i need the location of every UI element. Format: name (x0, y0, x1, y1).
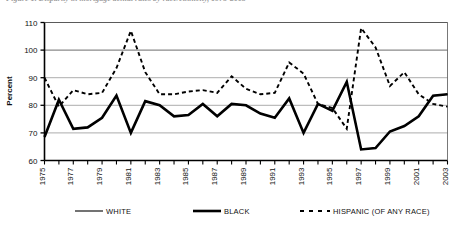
x-tick-label: 1977 (66, 167, 75, 185)
x-axis-tick-labels: 1975197719791981198319851987198919911993… (38, 167, 450, 185)
legend-item-hispanic-of-any-race: HISPANIC (OF ANY RACE) (300, 207, 430, 216)
x-tick-label: 2001 (412, 167, 421, 185)
legend-label: WHITE (106, 207, 131, 216)
x-tick-label: 1975 (38, 167, 47, 185)
x-tick-label: 2003 (441, 167, 450, 185)
x-tick-label: 1993 (297, 167, 306, 185)
legend-label: BLACK (224, 207, 250, 216)
y-tick-label: 60 (29, 157, 38, 166)
legend-item-white: WHITE (75, 207, 131, 216)
y-tick-label: 90 (29, 74, 38, 83)
y-tick-label: 70 (29, 129, 38, 138)
legend-item-black: BLACK (193, 207, 250, 216)
x-tick-label: 1981 (124, 167, 133, 185)
x-tick-label: 1991 (268, 167, 277, 185)
plot-frame (45, 23, 448, 161)
x-tick-label: 1987 (210, 167, 219, 185)
y-axis-title: Percent (5, 76, 14, 106)
series-line-black (45, 82, 448, 150)
y-tick-label: 100 (24, 46, 38, 55)
chart-container: 60708090100110 1975197719791981198319851… (0, 0, 469, 228)
x-tick-label: 1979 (95, 167, 104, 185)
y-tick-label: 110 (25, 19, 38, 28)
chart-legend: WHITEBLACKHISPANIC (OF ANY RACE) (75, 207, 430, 216)
x-tick-label: 1995 (325, 167, 334, 185)
x-tick-label: 1997 (354, 167, 363, 185)
x-tick-label: 1989 (239, 167, 248, 185)
data-series-layer (45, 28, 448, 149)
line-chart: 60708090100110 1975197719791981198319851… (0, 0, 469, 228)
gridlines (45, 23, 448, 133)
y-tick-label: 80 (29, 101, 38, 110)
x-tick-label: 1985 (181, 167, 190, 185)
legend-label: HISPANIC (OF ANY RACE) (333, 207, 430, 216)
x-tick-label: 1983 (153, 167, 162, 185)
y-axis-tick-labels: 60708090100110 (24, 19, 38, 166)
x-tick-label: 1999 (383, 167, 392, 185)
